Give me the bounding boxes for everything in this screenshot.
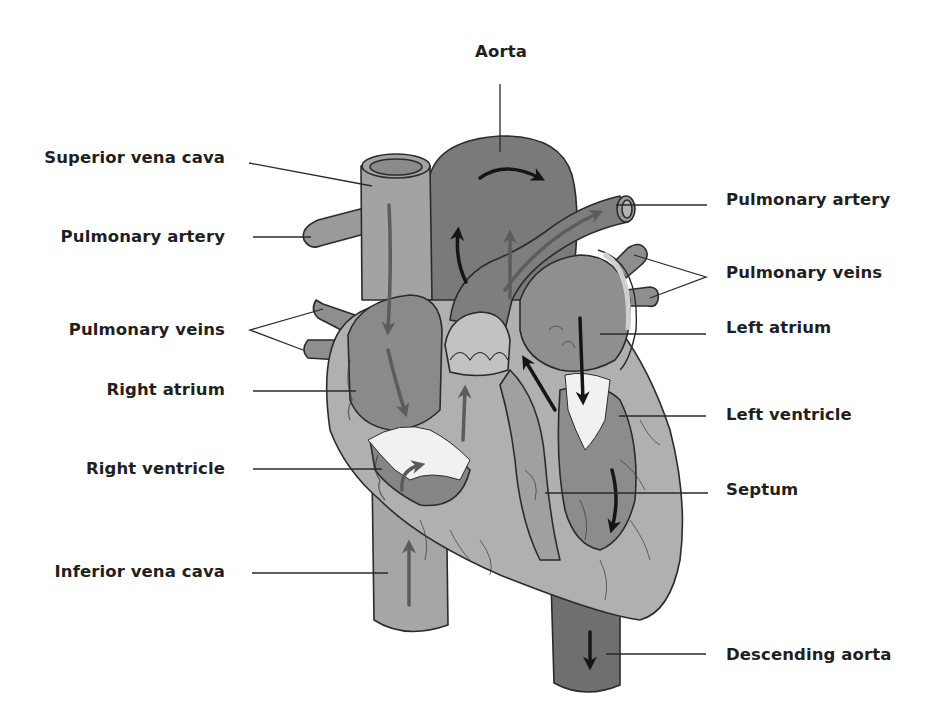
label-pulmonary-veins-right: Pulmonary veins [726, 263, 882, 283]
label-pulmonary-artery-left: Pulmonary artery [61, 227, 225, 247]
leader-superior-vena-cava [249, 163, 372, 186]
label-superior-vena-cava: Superior vena cava [44, 148, 225, 168]
label-septum: Septum [726, 480, 798, 500]
label-left-atrium: Left atrium [726, 318, 831, 338]
heart-illustration [0, 0, 936, 719]
label-inferior-vena-cava: Inferior vena cava [55, 562, 225, 582]
label-pulmonary-artery-right: Pulmonary artery [726, 190, 890, 210]
label-aorta: Aorta [470, 42, 532, 62]
label-right-ventricle: Right ventricle [86, 459, 225, 479]
label-right-atrium: Right atrium [106, 380, 225, 400]
label-pulmonary-veins-left: Pulmonary veins [69, 320, 225, 340]
label-left-ventricle: Left ventricle [726, 405, 852, 425]
label-descending-aorta: Descending aorta [726, 645, 891, 665]
right-atrium-chamber [348, 295, 442, 430]
heart-diagram: Aorta Superior vena cava Pulmonary arter… [0, 0, 936, 719]
superior-vena-cava-shape [361, 158, 432, 300]
flow-arrow-rv-up [463, 390, 465, 440]
